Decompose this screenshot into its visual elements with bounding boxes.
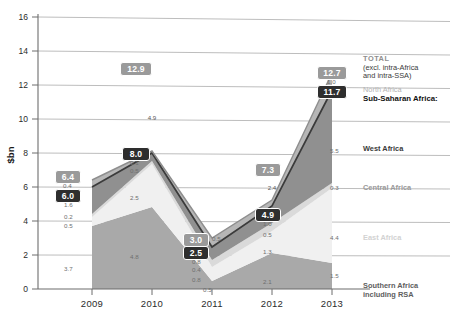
value-central-africa-2009: 0.2	[64, 213, 73, 220]
value-north-africa-2010: 0.1	[130, 159, 139, 166]
legend-central-africa: Central Africa	[363, 184, 448, 193]
callout-total-2011: 3.0	[183, 233, 209, 247]
x-tick-label-2012: 2012	[261, 298, 283, 309]
value-central-africa-2011: 0.4	[192, 266, 201, 273]
value-southern-africa-2011: 0.5	[203, 286, 212, 293]
legend-total-group: TOTAL (excl. intra-Africa and intra-SSA)	[363, 55, 448, 81]
value-east-africa-2011: 0.8	[192, 276, 201, 283]
value-central-africa-2013: 0.3	[330, 184, 339, 191]
y-tick-label-8: 8	[23, 148, 28, 158]
callout-total-2012: 7.3	[255, 163, 281, 177]
value-southern-africa-2013: 1.5	[330, 272, 339, 279]
segment-label-west-2010: 4.9	[148, 114, 157, 121]
value-west-africa-2011: 0.8	[192, 258, 201, 265]
y-tick-label-12: 12	[19, 80, 29, 90]
x-tick-marks	[92, 289, 332, 295]
value-west-africa-2012: 1.0	[263, 220, 272, 227]
y-tick-label-14: 14	[19, 46, 29, 56]
legend-west-africa: West Africa	[363, 145, 448, 154]
callout-total-2010: 12.9	[120, 62, 152, 76]
legend-sub-saharan-africa: Sub-Saharan Africa:	[363, 95, 450, 104]
x-tick-label-2011: 2011	[201, 298, 223, 309]
x-tick-label-2013: 2013	[321, 298, 343, 309]
y-tick-label-10: 10	[19, 114, 29, 124]
y-tick-label-0: 0	[23, 284, 28, 294]
y-tick-label-2: 2	[23, 250, 28, 260]
y-tick-label-6: 6	[23, 182, 28, 192]
value-north-africa-2013: 1.0	[327, 78, 336, 85]
value-north-africa-2009: 0.4	[63, 182, 72, 189]
value-east-africa-2010: 2.5	[130, 194, 139, 201]
value-southern-africa-2009: 3.7	[64, 265, 73, 272]
area-chart-plot: 16 14 12 10 8 6 4 2 0 $bn 2009 2010 2011…	[0, 0, 450, 328]
y-axis-title: $bn	[5, 146, 16, 163]
y-tick-marks	[32, 17, 38, 289]
x-tick-label-2010: 2010	[141, 298, 163, 309]
value-southern-africa-2010: 4.8	[130, 253, 139, 260]
legend-southern-africa-label-line2: including RSA	[363, 291, 448, 300]
value-north-africa-2011: 0.5	[212, 235, 221, 242]
value-east-africa-2013: 4.4	[330, 234, 339, 241]
value-west-africa-2009: 1.6	[64, 201, 73, 208]
chart-container: 16 14 12 10 8 6 4 2 0 $bn 2009 2010 2011…	[0, 0, 450, 328]
value-east-africa-2009: 0.5	[64, 222, 73, 229]
callout-ssa-2013: 11.7	[317, 85, 347, 99]
segment-label-west-2012: 2.4	[268, 184, 277, 191]
legend-east-africa: East Africa	[363, 234, 448, 243]
legend-west-africa-label: West Africa	[363, 145, 448, 154]
legend-total-subtitle-line2: and intra-SSA)	[363, 72, 448, 81]
legend-central-africa-label: Central Africa	[363, 184, 448, 193]
x-tick-label-2009: 2009	[81, 298, 103, 309]
y-tick-label-4: 4	[23, 216, 28, 226]
value-central-africa-2012: 0.5	[263, 231, 272, 238]
legend-east-africa-label: East Africa	[363, 234, 448, 243]
value-west-africa-2010: 0.5	[130, 167, 139, 174]
value-southern-africa-2012: 2.1	[263, 278, 272, 285]
y-tick-label-16: 16	[19, 12, 29, 22]
legend-sub-saharan-label: Sub-Saharan Africa:	[363, 95, 450, 104]
legend-southern-africa: Southern Africa including RSA	[363, 282, 448, 299]
value-west-africa-2013: 5.5	[330, 147, 339, 154]
value-east-africa-2012: 1.3	[263, 248, 272, 255]
